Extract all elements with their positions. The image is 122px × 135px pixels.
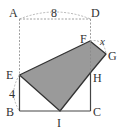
label-B: B [6, 105, 14, 119]
label-E: E [6, 68, 13, 82]
label-C: C [93, 105, 101, 119]
label-I: I [57, 116, 61, 130]
label-A: A [9, 6, 18, 20]
measure-AD: 8 [51, 6, 57, 20]
label-G: G [108, 49, 117, 63]
label-H: H [93, 71, 102, 85]
measure-FG: x [99, 35, 105, 47]
label-F: F [80, 32, 87, 46]
geometry-figure: A D F G E H B I C 8 4 x [0, 0, 122, 135]
measure-EB: 4 [9, 87, 15, 101]
label-D: D [91, 6, 100, 20]
